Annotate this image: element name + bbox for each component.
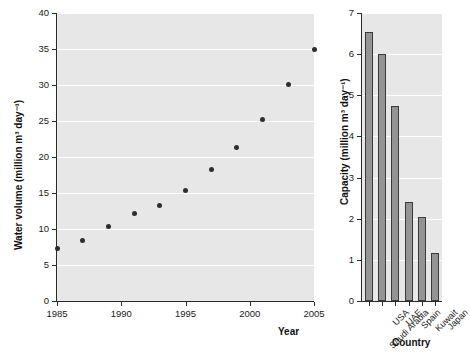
scatter-y-tick-label: 0 xyxy=(0,296,49,306)
bar-y-tick-label: 2 xyxy=(330,214,354,224)
scatter-data-point xyxy=(286,82,291,87)
water-volume-scatter-chart: Water volume (million m³ day⁻¹) Year 051… xyxy=(0,0,330,360)
scatter-x-tick-label: 2005 xyxy=(294,309,334,319)
scatter-y-tick-label: 20 xyxy=(0,152,49,162)
bar-gridline xyxy=(362,260,442,261)
scatter-y-tick-label: 25 xyxy=(0,116,49,126)
bar-plot-area xyxy=(362,13,442,301)
bar-x-tick xyxy=(395,302,396,306)
scatter-y-tick xyxy=(52,49,56,50)
scatter-gridline xyxy=(57,13,314,14)
bar-y-tick-label: 3 xyxy=(330,173,354,183)
scatter-x-tick xyxy=(250,302,251,306)
bar-column xyxy=(431,253,439,301)
scatter-gridline xyxy=(57,85,314,86)
bar-x-tick xyxy=(409,302,410,306)
bar-y-tick-label: 7 xyxy=(330,8,354,18)
scatter-x-tick xyxy=(57,302,58,306)
bar-y-tick xyxy=(357,95,361,96)
scatter-y-tick xyxy=(52,265,56,266)
scatter-y-tick-label: 5 xyxy=(0,260,49,270)
bar-y-tick xyxy=(357,13,361,14)
bar-column xyxy=(378,54,386,301)
scatter-y-tick xyxy=(52,121,56,122)
bar-y-tick xyxy=(357,301,361,302)
bar-x-tick xyxy=(369,302,370,306)
scatter-x-tick-label: 1990 xyxy=(101,309,141,319)
scatter-x-tick xyxy=(121,302,122,306)
bar-y-tick xyxy=(357,260,361,261)
scatter-data-point xyxy=(157,203,162,208)
scatter-y-tick-label: 35 xyxy=(0,44,49,54)
scatter-x-tick xyxy=(314,302,315,306)
bar-y-tick xyxy=(357,136,361,137)
scatter-data-point xyxy=(234,145,239,150)
scatter-y-tick xyxy=(52,13,56,14)
bar-gridline xyxy=(362,178,442,179)
bar-y-tick xyxy=(357,54,361,55)
scatter-data-point xyxy=(80,238,85,243)
bar-x-tick xyxy=(382,302,383,306)
scatter-y-tick xyxy=(52,229,56,230)
scatter-y-tick xyxy=(52,85,56,86)
scatter-x-axis-title: Year xyxy=(278,327,299,337)
bar-y-tick-label: 1 xyxy=(330,255,354,265)
scatter-y-tick-label: 30 xyxy=(0,80,49,90)
bar-y-tick-label: 5 xyxy=(330,90,354,100)
bar-gridline xyxy=(362,219,442,220)
scatter-y-tick xyxy=(52,193,56,194)
capacity-bar-chart: Capacity (million m³ day⁻¹) Country 0123… xyxy=(330,0,445,360)
bar-y-tick xyxy=(357,219,361,220)
bar-x-tick xyxy=(422,302,423,306)
bar-x-axis-line xyxy=(361,301,442,302)
scatter-y-tick-label: 10 xyxy=(0,224,49,234)
bar-column xyxy=(405,202,413,301)
scatter-y-tick-label: 15 xyxy=(0,188,49,198)
bar-gridline xyxy=(362,54,442,55)
bar-gridline xyxy=(362,13,442,14)
scatter-data-point xyxy=(209,167,214,172)
scatter-x-tick-label: 1985 xyxy=(37,309,77,319)
scatter-data-point xyxy=(312,47,317,52)
scatter-y-axis-line xyxy=(56,13,57,301)
scatter-x-tick-label: 2000 xyxy=(230,309,270,319)
bar-gridline xyxy=(362,95,442,96)
bar-y-tick-label: 0 xyxy=(330,296,354,306)
scatter-y-tick xyxy=(52,301,56,302)
scatter-x-tick-label: 1995 xyxy=(166,309,206,319)
scatter-data-point xyxy=(132,211,137,216)
scatter-gridline xyxy=(57,193,314,194)
scatter-plot-area xyxy=(57,13,314,301)
bar-y-tick-label: 4 xyxy=(330,131,354,141)
scatter-x-tick xyxy=(186,302,187,306)
bar-gridline xyxy=(362,136,442,137)
scatter-gridline xyxy=(57,265,314,266)
bar-x-tick xyxy=(435,302,436,306)
bar-y-tick xyxy=(357,178,361,179)
scatter-y-tick xyxy=(52,157,56,158)
scatter-gridline xyxy=(57,157,314,158)
scatter-y-tick-label: 40 xyxy=(0,8,49,18)
scatter-gridline xyxy=(57,49,314,50)
scatter-gridline xyxy=(57,121,314,122)
bar-column xyxy=(418,217,426,301)
bar-y-tick-label: 6 xyxy=(330,49,354,59)
scatter-gridline xyxy=(57,229,314,230)
bar-column xyxy=(391,106,399,301)
bar-y-axis-line xyxy=(361,13,362,301)
bar-column xyxy=(365,32,373,301)
